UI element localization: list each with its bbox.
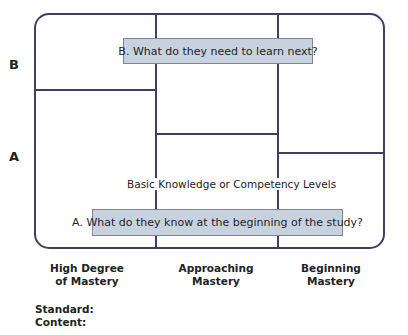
question-b-text: B. What do they need to learn next?: [118, 45, 317, 58]
level-line-approaching-mastery: [156, 133, 278, 135]
column-label-approaching-mastery: Approaching Mastery: [161, 262, 271, 288]
column-label-line2: of Mastery: [32, 275, 142, 288]
column-label-line2: Mastery: [276, 275, 386, 288]
level-line-beginning-mastery: [278, 152, 384, 154]
question-a-box: A. What do they know at the beginning of…: [92, 209, 343, 236]
row-label-b: B: [9, 57, 19, 72]
level-line-high-mastery: [35, 89, 156, 91]
column-label-line2: Mastery: [161, 275, 271, 288]
content-label: Content:: [35, 316, 86, 329]
column-label-high-mastery: High Degree of Mastery: [32, 262, 142, 288]
standard-label: Standard:: [35, 303, 94, 316]
column-label-line1: Approaching: [161, 262, 271, 275]
column-label-line1: Beginning: [276, 262, 386, 275]
row-label-a: A: [9, 149, 19, 164]
question-a-text: A. What do they know at the beginning of…: [72, 216, 363, 229]
column-label-line1: High Degree: [32, 262, 142, 275]
column-label-beginning-mastery: Beginning Mastery: [276, 262, 386, 288]
question-b-box: B. What do they need to learn next?: [123, 38, 313, 64]
axis-caption: Basic Knowledge or Competency Levels: [125, 178, 338, 190]
